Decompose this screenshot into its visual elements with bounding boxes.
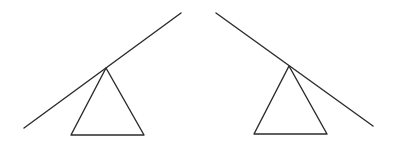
left-plank [24, 13, 181, 128]
right-seesaw [216, 13, 373, 134]
seesaw-diagram [0, 0, 394, 145]
right-plank [216, 13, 373, 126]
left-fulcrum-triangle [71, 68, 144, 135]
right-fulcrum-triangle [254, 66, 327, 134]
left-seesaw [24, 13, 181, 135]
